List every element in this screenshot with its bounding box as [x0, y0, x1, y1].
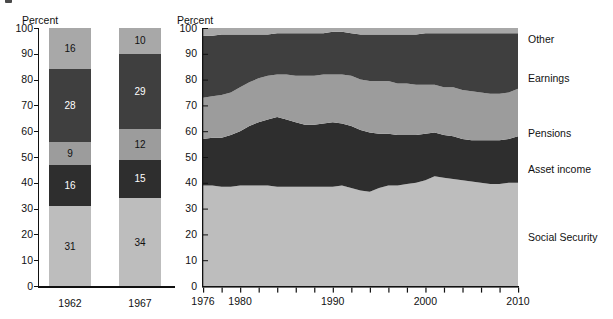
bar-panel-y-tick-label: 30	[0, 203, 33, 214]
area-panel-y-tick-label: 30	[172, 203, 197, 214]
stacked-bar-panel: Percent 1009080706050403020100 311692816…	[0, 0, 180, 319]
area-panel-x-tick-mark	[240, 288, 241, 293]
stacked-area-panel: Percent 1009080706050403020100 197619801…	[176, 0, 613, 319]
area-panel-x-tick-label: 1990	[312, 296, 354, 307]
bar-panel-y-tick-mark	[34, 28, 38, 29]
area-panel-x-tick-label: 2000	[404, 296, 446, 307]
area-panel-x-tick-mark	[499, 288, 500, 293]
area-panel-y-tick-label: 80	[172, 74, 197, 85]
area-panel-x-tick-mark	[370, 288, 371, 293]
stacked-bar[interactable]: 3415122910	[119, 28, 161, 286]
bar-segment-value: 12	[119, 139, 161, 150]
area-panel-y-tick-mark	[203, 234, 208, 235]
bar-segment-value: 15	[119, 173, 161, 184]
bar-panel-baseline	[38, 286, 175, 288]
bar-segment-value: 34	[119, 237, 161, 248]
bar-panel-y-tick-mark	[34, 157, 38, 158]
bar-segment[interactable]: 16	[49, 28, 91, 69]
bar-segment-value: 16	[49, 180, 91, 191]
area-panel-x-tick-mark	[296, 288, 297, 293]
area-panel-y-tick-label: 0	[172, 281, 197, 292]
bar-segment[interactable]: 15	[119, 160, 161, 199]
legend-label-earnings[interactable]: Earnings	[528, 72, 569, 84]
area-panel-x-tick-mark	[333, 288, 334, 293]
bar-panel-y-tick-mark	[34, 54, 38, 55]
area-panel-x-tick-label: 1976	[182, 296, 224, 307]
bar-segment[interactable]: 28	[49, 69, 91, 141]
area-panel-y-tick-mark	[203, 105, 208, 106]
area-panel-x-tick-mark	[444, 288, 445, 293]
legend-label-asset-income[interactable]: Asset income	[528, 163, 591, 175]
bar-panel-y-tick-label: 100	[0, 23, 33, 34]
bar-segment[interactable]: 9	[49, 142, 91, 165]
bar-panel-y-tick-mark	[34, 131, 38, 132]
bar-panel-x-tick-label: 1967	[115, 298, 165, 309]
bar-segment[interactable]: 34	[119, 198, 161, 286]
area-panel-x-tick-mark	[203, 288, 204, 293]
bar-panel-y-tick-mark	[34, 183, 38, 184]
area-panel-y-tick-mark	[203, 131, 208, 132]
area-panel-y-tick-label: 20	[172, 229, 197, 240]
area-chart-svg	[176, 0, 613, 319]
bar-segment-value: 31	[49, 241, 91, 252]
area-panel-x-tick-mark	[314, 288, 315, 293]
area-panel-x-tick-mark	[425, 288, 426, 293]
bar-panel-y-tick-mark	[34, 80, 38, 81]
bar-segment-value: 9	[49, 148, 91, 159]
bar-panel-y-tick-label: 0	[0, 281, 33, 292]
area-panel-x-tick-mark	[481, 288, 482, 293]
figure-root: Percent 1009080706050403020100 311692816…	[0, 0, 613, 319]
bar-segment-value: 28	[49, 100, 91, 111]
bar-panel-y-tick-mark	[34, 234, 38, 235]
area-panel-y-tick-mark	[203, 183, 208, 184]
area-panel-y-tick-label: 50	[172, 152, 197, 163]
bar-panel-x-tick-label: 1962	[45, 298, 95, 309]
area-band-social-security[interactable]	[203, 176, 518, 286]
area-panel-y-tick-mark	[203, 286, 208, 287]
bar-segment[interactable]: 10	[119, 28, 161, 54]
area-panel-x-tick-mark	[277, 288, 278, 293]
bar-segment[interactable]: 31	[49, 206, 91, 286]
legend-label-social-security[interactable]: Social Security	[528, 231, 597, 243]
bar-segment-value: 16	[49, 43, 91, 54]
bar-panel-y-tick-mark	[34, 286, 38, 287]
bar-panel-y-axis-line	[38, 28, 39, 287]
bar-segment[interactable]: 16	[49, 165, 91, 206]
bar-panel-y-tick-label: 50	[0, 152, 33, 163]
bar-panel-y-tick-label: 80	[0, 74, 33, 85]
area-panel-x-tick-mark	[351, 288, 352, 293]
bar-panel-y-tick-label: 90	[0, 48, 33, 59]
area-panel-y-tick-label: 100	[172, 23, 197, 34]
bar-panel-y-tick-label: 20	[0, 229, 33, 240]
area-panel-y-tick-mark	[203, 157, 208, 158]
bar-panel-y-tick-mark	[34, 260, 38, 261]
area-panel-x-tick-mark	[407, 288, 408, 293]
area-panel-y-tick-mark	[203, 80, 208, 81]
area-panel-y-tick-mark	[203, 260, 208, 261]
bar-panel-y-tick-label: 70	[0, 100, 33, 111]
legend-label-other[interactable]: Other	[528, 33, 554, 45]
bar-panel-y-tick-mark	[34, 209, 38, 210]
area-panel-x-tick-mark	[462, 288, 463, 293]
area-panel-y-tick-label: 70	[172, 100, 197, 111]
bar-segment-value: 10	[119, 35, 161, 46]
bar-panel-y-tick-mark	[34, 105, 38, 106]
area-panel-baseline	[202, 286, 519, 288]
area-panel-x-tick-mark	[222, 288, 223, 293]
area-panel-x-tick-label: 2010	[497, 296, 539, 307]
area-panel-y-tick-label: 40	[172, 177, 197, 188]
bar-segment[interactable]: 29	[119, 54, 161, 129]
area-panel-y-tick-mark	[203, 28, 208, 29]
area-panel-x-tick-mark	[518, 288, 519, 293]
area-panel-x-tick-label: 1980	[219, 296, 261, 307]
legend-label-pensions[interactable]: Pensions	[528, 127, 571, 139]
area-panel-y-tick-mark	[203, 54, 208, 55]
area-panel-x-tick-mark	[388, 288, 389, 293]
bar-segment-value: 29	[119, 86, 161, 97]
bar-panel-y-tick-label: 60	[0, 126, 33, 137]
stacked-bar[interactable]: 311692816	[49, 28, 91, 286]
bar-panel-y-tick-label: 10	[0, 255, 33, 266]
area-panel-y-tick-label: 10	[172, 255, 197, 266]
area-panel-x-tick-mark	[259, 288, 260, 293]
bar-segment[interactable]: 12	[119, 129, 161, 160]
